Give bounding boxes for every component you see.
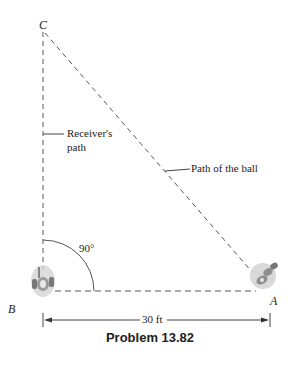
player-b-icon <box>31 265 55 297</box>
dimension-arrow-right-icon <box>261 318 269 323</box>
player-a-icon <box>250 261 279 289</box>
dimension-arrow-left-icon <box>44 318 52 323</box>
distance-label: 30 ft <box>142 313 162 326</box>
figure-caption: Problem 13.82 <box>0 330 300 345</box>
ball-path-leader <box>165 169 190 171</box>
point-b-label: B <box>8 302 15 317</box>
point-c-label: C <box>39 18 47 33</box>
receiver-path-label-line1: Receiver's <box>67 127 112 140</box>
ball-path-label: Path of the ball <box>191 162 258 175</box>
receiver-path-label-line2: path <box>67 141 86 154</box>
diagram-canvas <box>0 0 300 365</box>
point-a-label: A <box>270 294 277 309</box>
angle-label: 90° <box>79 242 94 255</box>
